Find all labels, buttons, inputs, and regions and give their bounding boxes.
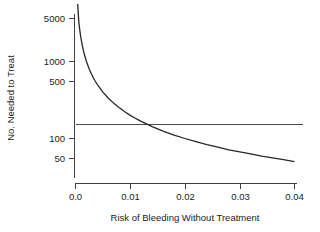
data-series-group bbox=[76, 4, 303, 162]
y-tick-label-1000: 1000 bbox=[44, 56, 65, 67]
x-axis-title: Risk of Bleeding Without Treatment bbox=[111, 212, 260, 223]
y-tick-marks bbox=[69, 19, 75, 159]
x-tick-label-004: 0.04 bbox=[285, 191, 304, 202]
x-tick-label-0: 0.0 bbox=[69, 191, 82, 202]
x-tick-label-003: 0.03 bbox=[231, 191, 250, 202]
y-axis-title: No. Needed to Treat bbox=[5, 55, 16, 141]
nnt-curve bbox=[78, 4, 295, 162]
chart-figure: 5000 1000 500 100 50 0.0 0.01 0.02 0.03 … bbox=[0, 0, 320, 232]
chart-svg: 5000 1000 500 100 50 0.0 0.01 0.02 0.03 … bbox=[0, 0, 320, 232]
y-tick-label-500: 500 bbox=[49, 76, 65, 87]
x-tick-label-002: 0.02 bbox=[176, 191, 195, 202]
y-tick-labels: 5000 1000 500 100 50 bbox=[44, 13, 65, 164]
x-tick-labels: 0.0 0.01 0.02 0.03 0.04 bbox=[69, 191, 304, 202]
y-tick-label-5000: 5000 bbox=[44, 13, 65, 24]
y-tick-label-100: 100 bbox=[49, 133, 65, 144]
y-tick-label-50: 50 bbox=[54, 153, 65, 164]
x-tick-marks bbox=[76, 184, 295, 190]
x-tick-label-001: 0.01 bbox=[121, 191, 140, 202]
